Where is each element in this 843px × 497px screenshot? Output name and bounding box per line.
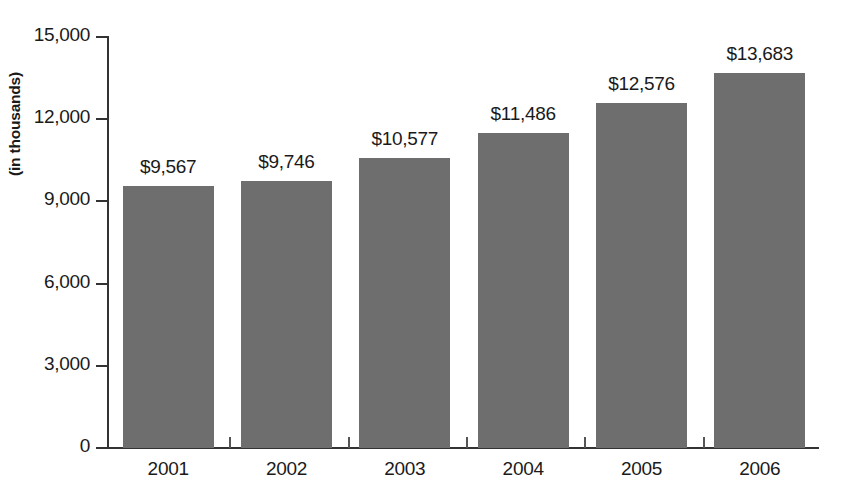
y-tick-15000 xyxy=(96,36,109,38)
x-minor-tick xyxy=(703,437,705,448)
bar-value-label-2003: $10,577 xyxy=(335,128,475,150)
y-tick-0 xyxy=(96,447,109,449)
bar-value-label-2006: $13,683 xyxy=(690,43,830,65)
bar-value-label-2004: $11,486 xyxy=(453,103,593,125)
bar-2001 xyxy=(123,186,214,448)
y-tick-6000 xyxy=(96,283,109,285)
y-tick-12000 xyxy=(96,118,109,120)
x-minor-tick xyxy=(229,437,231,448)
bar-chart: (in thousands) 03,0006,0009,00012,00015,… xyxy=(0,0,843,497)
y-tick-label: 15,000 xyxy=(6,24,90,46)
y-tick-label: 0 xyxy=(6,435,90,457)
y-tick-9000 xyxy=(96,200,109,202)
bar-2006 xyxy=(714,73,805,448)
x-axis-label-2006: 2006 xyxy=(690,458,830,480)
bar-value-label-2002: $9,746 xyxy=(217,151,357,173)
y-tick-label: 9,000 xyxy=(6,188,90,210)
bar-2003 xyxy=(359,158,450,448)
x-minor-tick xyxy=(584,437,586,448)
y-tick-label: 6,000 xyxy=(6,271,90,293)
bar-2005 xyxy=(596,103,687,448)
bar-2002 xyxy=(241,181,332,448)
bar-value-label-2005: $12,576 xyxy=(572,73,712,95)
y-tick-label: 12,000 xyxy=(6,106,90,128)
y-tick-label: 3,000 xyxy=(6,353,90,375)
y-tick-3000 xyxy=(96,365,109,367)
y-axis-line xyxy=(107,36,109,449)
bar-2004 xyxy=(478,133,569,448)
x-minor-tick xyxy=(466,437,468,448)
x-minor-tick xyxy=(348,437,350,448)
